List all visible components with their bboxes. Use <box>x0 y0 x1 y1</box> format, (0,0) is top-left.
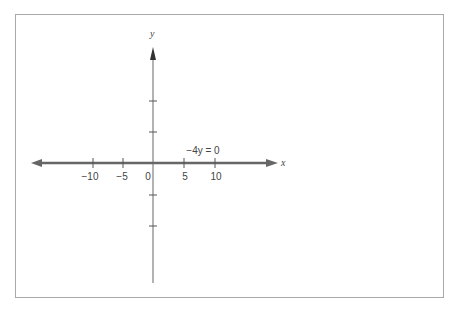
x-tick-label: 10 <box>210 171 222 182</box>
x-tick-label: −10 <box>82 171 99 182</box>
x-axis-left-arrow-icon <box>31 159 42 167</box>
x-tick-label: −5 <box>116 171 128 182</box>
coordinate-plane: y x −10 −5 0 5 10 −4y = 0 <box>0 0 457 314</box>
x-tick-label: 0 <box>145 171 151 182</box>
x-axis-label: x <box>280 157 286 168</box>
x-tick-label: 5 <box>182 171 188 182</box>
x-axis-right-arrow-icon <box>266 159 278 167</box>
y-axis-arrow-icon <box>150 47 156 60</box>
y-axis-label: y <box>149 28 155 39</box>
equation-label: −4y = 0 <box>186 145 220 156</box>
